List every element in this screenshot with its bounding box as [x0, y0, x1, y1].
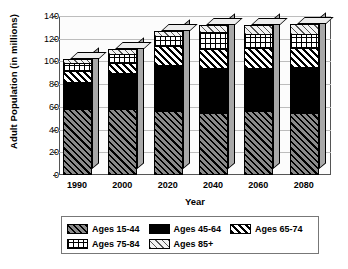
bar-side-face [183, 19, 190, 169]
x-tick-label: 2040 [192, 181, 234, 190]
x-tick-label: 2080 [283, 181, 325, 190]
bar-side-face [319, 12, 326, 169]
x-tick-label: 1990 [56, 181, 98, 190]
x-tick-label: 2000 [101, 181, 143, 190]
bar-segment-ages-15-44 [290, 113, 319, 175]
bar-segment-ages-15-44 [108, 109, 137, 175]
bar-segment-ages-15-44 [244, 111, 273, 175]
bar-segment-ages-45-64 [154, 65, 183, 112]
legend: Ages 15-44Ages 45-64Ages 65-74Ages 75-84… [61, 216, 319, 254]
bar-segment-ages-45-64 [199, 68, 228, 112]
legend-swatch-icon [149, 224, 170, 234]
plot-area [59, 16, 331, 175]
legend-swatch-icon [149, 239, 170, 249]
legend-swatch-icon [230, 224, 251, 234]
bar-segment-ages-65-74 [290, 48, 319, 67]
x-tick-label: 2020 [147, 181, 189, 190]
bar-stack [63, 59, 92, 175]
y-tick-mark [53, 61, 57, 62]
legend-swatch-icon [67, 239, 88, 249]
bar-top-face [206, 18, 243, 25]
x-tick-label: 2060 [237, 181, 279, 190]
bar-segment-ages-15-44 [199, 113, 228, 175]
legend-item-ages-75-84[interactable]: Ages 75-84 [67, 239, 140, 249]
bar-segment-ages-45-64 [244, 68, 273, 111]
bar-segment-ages-65-74 [154, 46, 183, 65]
bar-stack [290, 24, 319, 175]
legend-item-ages-85[interactable]: Ages 85+ [149, 239, 214, 249]
bar-top-face [251, 18, 288, 25]
y-tick-mark [53, 152, 57, 153]
bar-segment-ages-85 [290, 24, 319, 34]
legend-item-ages-65-74[interactable]: Ages 65-74 [230, 224, 303, 234]
y-tick-mark [53, 107, 57, 108]
bar-segment-ages-45-64 [290, 67, 319, 112]
legend-row: Ages 75-84Ages 85+ [67, 236, 313, 251]
legend-row: Ages 15-44Ages 45-64Ages 65-74 [67, 221, 313, 236]
y-tick-mark [53, 16, 57, 17]
bar-segment-ages-65-74 [199, 49, 228, 68]
bar-segment-ages-75-84 [290, 34, 319, 48]
bar-segment-ages-75-84 [108, 54, 137, 63]
bar-segment-ages-85 [244, 25, 273, 34]
x-axis-title: Year [59, 196, 331, 207]
bar-top-face [115, 42, 152, 49]
y-tick-mark [53, 130, 57, 131]
bar-segment-ages-45-64 [63, 82, 92, 109]
bar-stack [244, 25, 273, 175]
y-axis-title: Adult Population (in millions) [8, 7, 19, 157]
legend-label: Ages 75-84 [92, 239, 140, 249]
bar-segment-ages-15-44 [63, 109, 92, 175]
bar-stack [108, 49, 137, 175]
y-tick-mark [53, 84, 57, 85]
bar-stack [199, 25, 228, 175]
legend-label: Ages 65-74 [255, 224, 303, 234]
bar-segment-ages-65-74 [244, 48, 273, 68]
bars-group [59, 16, 331, 175]
bar-side-face [92, 47, 99, 169]
bar-segment-ages-85 [199, 25, 228, 32]
legend-item-ages-15-44[interactable]: Ages 15-44 [67, 224, 140, 234]
bar-top-face [70, 52, 107, 59]
legend-label: Ages 15-44 [92, 224, 140, 234]
y-tick-mark [53, 175, 57, 176]
bar-side-face [137, 37, 144, 169]
bar-segment-ages-75-84 [63, 63, 92, 71]
y-tick-mark [53, 39, 57, 40]
legend-label: Ages 85+ [174, 239, 214, 249]
legend-label: Ages 45-64 [174, 224, 222, 234]
bar-stack [154, 31, 183, 175]
legend-swatch-icon [67, 224, 88, 234]
bar-side-face [228, 13, 235, 169]
bar-top-face [297, 17, 334, 24]
legend-item-ages-45-64[interactable]: Ages 45-64 [149, 224, 222, 234]
bar-top-face [161, 24, 198, 31]
bar-segment-ages-15-44 [154, 111, 183, 175]
bar-segment-ages-65-74 [108, 63, 137, 73]
stacked-bar-chart: Adult Population (in millions) 020406080… [0, 0, 348, 269]
bar-segment-ages-45-64 [108, 73, 137, 109]
bar-segment-ages-65-74 [63, 71, 92, 82]
bar-segment-ages-75-84 [199, 32, 228, 49]
bar-side-face [273, 13, 280, 169]
y-axis: 020406080100120140 [24, 0, 59, 191]
bar-segment-ages-75-84 [244, 34, 273, 48]
bar-segment-ages-75-84 [154, 36, 183, 45]
